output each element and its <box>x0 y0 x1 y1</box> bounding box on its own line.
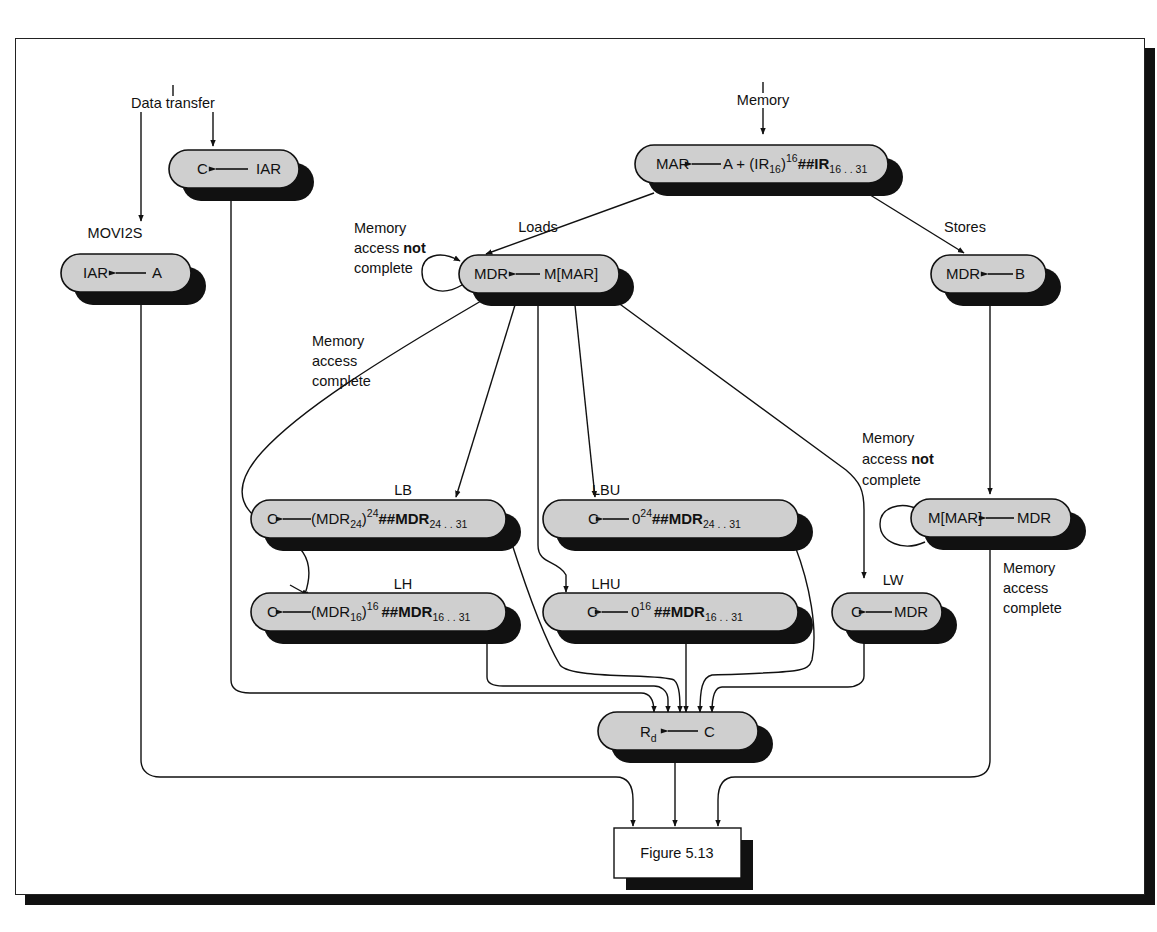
node-load-memory[interactable]: MDR M[MAR] <box>459 255 634 306</box>
data-transfer-label: Data transfer <box>131 95 215 111</box>
stores-label: Stores <box>944 219 986 235</box>
entry-data-transfer: Data transfer <box>131 85 215 111</box>
entry-memory: Memory <box>737 82 790 108</box>
svg-text:IAR: IAR <box>256 160 281 177</box>
edge-lh-to-rd <box>487 637 668 712</box>
svg-text:complete: complete <box>312 373 371 389</box>
node-lb[interactable]: C (MDR24)24##MDR24 . . 31 <box>251 500 521 551</box>
node-lh[interactable]: C (MDR16)16##MDR16 . . 31 <box>251 593 521 644</box>
svg-text:MAR: MAR <box>656 155 690 172</box>
svg-text:C: C <box>704 723 715 740</box>
state-diagram: Data transfer Memory <box>0 0 1157 932</box>
svg-text:MDR: MDR <box>474 265 508 282</box>
node-movi2s[interactable]: IAR A <box>61 254 206 305</box>
node-store-memory[interactable]: M[MAR] MDR <box>911 499 1086 550</box>
node-store-mdr[interactable]: MDR B <box>931 255 1061 306</box>
node-lbu[interactable]: C 024##MDR24 . . 31 <box>543 500 813 551</box>
svg-text:MDR: MDR <box>1017 509 1051 526</box>
svg-text:MDR: MDR <box>894 603 928 620</box>
svg-text:C: C <box>588 510 599 527</box>
svg-text:complete: complete <box>354 260 413 276</box>
figure-reference-label: Figure 5.13 <box>640 845 713 861</box>
not-emphasis: not <box>403 240 426 256</box>
edge-to-load-mem <box>486 193 654 254</box>
svg-text:access: access <box>312 353 357 369</box>
node-lw[interactable]: C MDR <box>832 593 957 644</box>
memory-label: Memory <box>737 92 790 108</box>
svg-text:Memory: Memory <box>862 430 915 446</box>
figure-reference-box[interactable]: Figure 5.13 <box>614 828 753 890</box>
svg-text:C: C <box>267 510 278 527</box>
edge-load-to-lb <box>456 305 515 497</box>
loads-label: Loads <box>518 219 558 235</box>
svg-text:C: C <box>587 603 598 620</box>
svg-text:access: access <box>1003 580 1048 596</box>
svg-text:C: C <box>197 160 208 177</box>
svg-text:Memory: Memory <box>1003 560 1056 576</box>
lw-label: LW <box>883 572 904 588</box>
svg-text:C: C <box>851 603 862 620</box>
svg-text:C: C <box>267 603 278 620</box>
lbu-label: LBU <box>592 482 620 498</box>
svg-text:complete: complete <box>862 472 921 488</box>
svg-text:access not: access not <box>354 240 426 256</box>
svg-text:M[MAR]: M[MAR] <box>544 265 598 282</box>
svg-text:B: B <box>1015 265 1025 282</box>
loop-load-not-complete <box>422 255 462 291</box>
annotation-store-complete: Memory access complete <box>1003 560 1062 616</box>
annotation-load-complete: Memory access complete <box>312 333 371 389</box>
lb-label: LB <box>394 482 412 498</box>
lh-label: LH <box>394 576 413 592</box>
node-movs2i[interactable]: C IAR <box>169 150 314 201</box>
edge-load-to-lhu <box>538 305 566 592</box>
edge-movi2s-to-figure <box>141 290 633 826</box>
svg-text:IAR: IAR <box>83 264 108 281</box>
not-emphasis: not <box>911 451 934 467</box>
annotation-store-not-complete: Memory access not complete <box>862 430 934 488</box>
movi2s-label: MOVI2S <box>88 225 143 241</box>
svg-text:M[MAR]: M[MAR] <box>928 509 982 526</box>
node-lhu[interactable]: C 016##MDR16 . . 31 <box>543 593 813 644</box>
svg-text:A: A <box>152 264 162 281</box>
edges <box>141 108 990 826</box>
svg-text:MDR: MDR <box>946 265 980 282</box>
svg-text:Memory: Memory <box>312 333 365 349</box>
svg-text:Memory: Memory <box>354 220 407 236</box>
svg-text:complete: complete <box>1003 600 1062 616</box>
edge-load-to-lbu <box>575 305 595 497</box>
svg-text:access not: access not <box>862 451 934 467</box>
node-writeback[interactable]: Rd C <box>598 712 773 763</box>
lhu-label: LHU <box>591 576 620 592</box>
annotation-load-not-complete: Memory access not complete <box>354 220 426 276</box>
node-address-calc[interactable]: MAR A + (IR16)16##IR16 . . 31 <box>635 145 903 196</box>
